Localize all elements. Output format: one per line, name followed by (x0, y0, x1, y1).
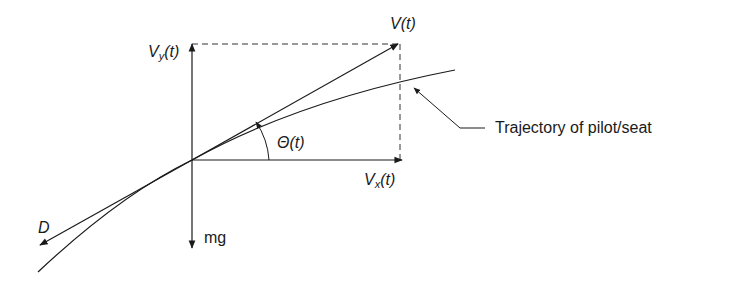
diagram-canvas (0, 0, 733, 283)
vy-label-tail: (t) (164, 43, 179, 60)
vx-label: Vx(t) (364, 172, 395, 190)
theta-label: Θ(t) (277, 135, 305, 151)
drag-label: D (38, 220, 50, 236)
vx-label-main: V (364, 171, 375, 188)
mg-label: mg (204, 230, 226, 246)
vy-label-main: V (148, 43, 159, 60)
vy-label: Vy(t) (148, 44, 179, 62)
v-label: V(t) (390, 16, 416, 32)
vx-label-tail: (t) (380, 171, 395, 188)
drag-arrow (40, 160, 192, 245)
trajectory-leader (414, 88, 485, 128)
trajectory-label: Trajectory of pilot/seat (495, 120, 652, 136)
